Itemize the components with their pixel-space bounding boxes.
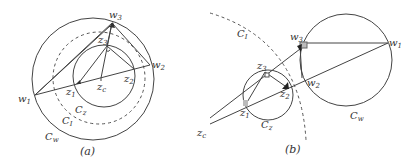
caption-b: (b)	[285, 143, 301, 156]
label-cw-a: Cw	[45, 131, 59, 144]
diagram-canvas: w3 w2 w1 z3 z2 z1 zc Cz CI Cw (a) w3 w1 …	[0, 0, 420, 165]
label-w3-b: w3	[290, 31, 304, 44]
marker-z1-b	[243, 100, 248, 106]
marker-z3-a	[106, 50, 110, 52]
label-z1-a: z1	[65, 86, 76, 99]
label-w2-a: w2	[152, 59, 166, 72]
panel-a	[32, 18, 154, 140]
label-z2-b: z2	[279, 88, 290, 101]
label-cw-b: Cw	[350, 110, 364, 123]
line-zc-w3-b	[210, 49, 300, 118]
line-zc-w1-b	[210, 43, 388, 124]
label-z3-b: z3	[256, 60, 267, 73]
circle-cw-b	[300, 14, 392, 106]
caption-a: (a)	[80, 145, 95, 158]
label-z2-a: z2	[123, 73, 134, 86]
label-zc-a: zc	[96, 81, 106, 94]
label-cz-a: Cz	[75, 104, 87, 117]
label-z1-b: z1	[239, 107, 250, 120]
panel-a-labels: w3 w2 w1 z3 z2 z1 zc Cz CI Cw (a)	[18, 9, 166, 158]
label-zc-b: zc	[196, 127, 206, 140]
label-ci-a: CI	[62, 115, 73, 128]
label-w1-b: w1	[389, 37, 402, 50]
circle-cw-a	[32, 18, 154, 140]
label-cz-b: Cz	[261, 119, 273, 132]
marker-z3-b	[265, 73, 269, 77]
label-ci-b: CI	[237, 28, 248, 41]
label-w3-a: w3	[109, 9, 123, 22]
label-w1-a: w1	[18, 93, 31, 106]
